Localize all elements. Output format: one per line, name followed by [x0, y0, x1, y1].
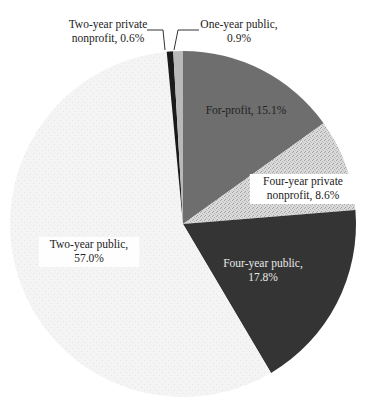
- data-label-text: nonprofit, 0.6%: [72, 32, 145, 45]
- data-label-text: 57.0%: [74, 252, 104, 264]
- data-label: For-profit, 15.1%: [206, 104, 287, 117]
- leader-line: [174, 30, 199, 50]
- data-label-text: Two-year public,: [50, 238, 129, 251]
- data-label-text: For-profit, 15.1%: [206, 104, 287, 117]
- data-label: Two-year privatenonprofit, 0.6%: [69, 18, 148, 45]
- data-label-text: 17.8%: [248, 271, 278, 283]
- data-label-text: Four-year private: [263, 175, 343, 188]
- pie-chart: For-profit, 15.1%Four-year privatenonpro…: [0, 0, 377, 411]
- data-label: Four-year privatenonprofit, 8.6%: [250, 174, 356, 204]
- leader-line: [147, 30, 165, 50]
- data-label-text: One-year public,: [200, 18, 277, 31]
- data-label: Two-year public,57.0%: [39, 237, 139, 267]
- data-label-text: Two-year private: [69, 18, 148, 31]
- data-label-text: 0.9%: [227, 32, 251, 44]
- data-label: One-year public,0.9%: [200, 18, 277, 44]
- data-label-text: nonprofit, 8.6%: [267, 189, 340, 202]
- data-label-text: Four-year public,: [223, 257, 303, 270]
